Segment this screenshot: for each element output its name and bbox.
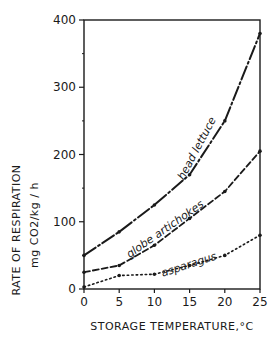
data-point [117, 264, 121, 268]
series-label-asparagus: asparagus [160, 250, 219, 280]
y-tick-label: 200 [53, 148, 76, 162]
data-point [82, 285, 86, 289]
data-point [117, 274, 121, 278]
x-axis-label: STORAGE TEMPERATURE,°C [90, 320, 254, 333]
y-tick-label: 100 [53, 215, 76, 229]
y-tick-label: 300 [53, 80, 76, 94]
x-tick-label: 10 [147, 295, 162, 309]
data-point [82, 270, 86, 274]
data-point [258, 32, 262, 36]
data-point [82, 254, 86, 258]
x-tick-label: 25 [252, 295, 267, 309]
y-tick-label: 0 [68, 282, 76, 296]
x-tick-label: 20 [217, 295, 232, 309]
series-lines [82, 32, 262, 289]
data-point [223, 190, 227, 194]
data-point [223, 254, 227, 258]
series-label-head-lettuce: head lettuce [175, 115, 219, 182]
data-point [258, 233, 262, 237]
data-point [223, 119, 227, 123]
data-point [258, 149, 262, 153]
data-point [117, 230, 121, 234]
x-axis: 0510152025 [80, 289, 267, 309]
respiration-chart: 0100200300400 0510152025 head lettuceglo… [0, 0, 277, 350]
data-point [153, 203, 157, 207]
x-tick-label: 0 [80, 295, 88, 309]
y-tick-label: 400 [53, 13, 76, 27]
series-label-globe-artichokes: globe artichokes [124, 197, 206, 260]
plot-border [84, 20, 260, 289]
y-axis: 0100200300400 [53, 13, 84, 296]
y-axis-label: RATE OF RESPIRATION [10, 164, 23, 295]
series-line-globe-artichokes [84, 151, 260, 272]
y-axis-units: mg CO2/kg / h [28, 182, 41, 268]
plot-frame [84, 20, 260, 289]
data-point [153, 272, 157, 276]
series-line-asparagus [84, 235, 260, 287]
x-tick-label: 5 [115, 295, 123, 309]
x-tick-label: 15 [182, 295, 197, 309]
series-labels: head lettuceglobe artichokesasparagus [124, 115, 219, 280]
